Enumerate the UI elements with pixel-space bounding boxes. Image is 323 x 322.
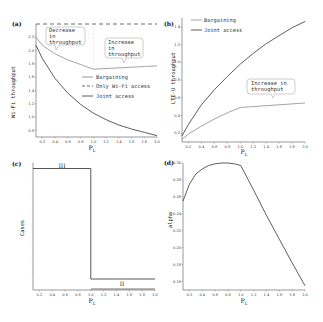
y-tick-label: 1.4: [28, 89, 34, 93]
y-tick-label: 1.8: [28, 62, 34, 66]
x-tick-label: 0.6: [212, 293, 218, 297]
series-alpha: [183, 163, 305, 286]
y-tick-label: 0.22: [173, 229, 181, 233]
panel-a-legend: Bargaining Only Wi-Fi access Joint acces…: [82, 74, 150, 99]
series-joint-access: [36, 45, 157, 135]
x-tick-label: 1.6: [126, 293, 132, 297]
y-tick-label: 0.24: [173, 212, 182, 216]
x-tick-label: 0.2: [37, 293, 43, 297]
y-tick-label: 0.30: [173, 161, 182, 165]
legend-bargaining: Bargaining: [96, 74, 128, 81]
x-tick-label: 1.2: [103, 140, 109, 144]
y-tick-label: 1.2: [174, 43, 180, 47]
y-tick-label: 2.2: [28, 35, 34, 39]
x-tick-label: 0.6: [62, 293, 68, 297]
x-tick-label: 2.0: [302, 145, 308, 149]
figure: (a) Wi-Fi throughput PL Bargaining Only …: [0, 0, 323, 322]
panel-b-label: (b): [164, 20, 174, 27]
x-tick-label: 2.0: [154, 140, 160, 144]
region-ii-label: II: [120, 280, 125, 287]
y-tick-label: 0.6: [174, 96, 180, 100]
x-tick-label: 1.2: [250, 145, 256, 149]
x-tick-label: 0.6: [65, 140, 71, 144]
x-tick-label: 0.8: [224, 145, 230, 149]
x-tick-label: 0.2: [40, 140, 46, 144]
x-tick-label: 0.4: [52, 140, 58, 144]
x-tick-label: 2.0: [302, 293, 308, 297]
x-tick-label: 0.8: [78, 140, 84, 144]
x-tick-label: 0.2: [187, 293, 193, 297]
x-tick-label: 0.8: [225, 293, 231, 297]
panel-b-annotation-increase: Increase in throughput: [247, 79, 295, 98]
x-tick-label: 1.8: [289, 145, 295, 149]
panel-a-label: (a): [12, 20, 22, 27]
y-tick-label: 0.4: [174, 114, 180, 118]
panel-b-legend: Bargaining Joint access: [191, 17, 242, 33]
y-tick-label: 0.8: [28, 129, 34, 133]
panel-a-ylabel: Wi-Fi throughput: [10, 66, 17, 118]
y-tick-label: 1.0: [28, 115, 34, 119]
x-tick-label: 1.6: [276, 293, 282, 297]
y-tick-label: 2.0: [28, 49, 34, 53]
y-tick-label: 0.26: [173, 195, 182, 199]
x-tick-label: 1.0: [88, 293, 94, 297]
panel-b-xlabel: PL: [240, 148, 247, 157]
panel-a-xlabel: PL: [88, 144, 95, 153]
x-tick-label: 1.0: [90, 140, 96, 144]
panel-a-annotation-decrease: Decrease in throughput: [46, 27, 85, 50]
panel-c-xlabel: PL: [88, 297, 95, 306]
panel-a: (a) Wi-Fi throughput PL Bargaining Only …: [10, 20, 150, 153]
panel-d-plot: 0.20.40.60.81.01.21.41.61.82.00.160.180.…: [173, 161, 309, 297]
x-tick-label: 1.8: [139, 293, 145, 297]
series-cases: [33, 169, 155, 280]
x-tick-label: 1.4: [264, 293, 270, 297]
y-tick-label: 1.4: [174, 25, 180, 29]
x-tick-label: 1.0: [238, 293, 244, 297]
x-tick-label: 0.4: [49, 293, 55, 297]
panel-d-xlabel: PL: [240, 297, 247, 306]
x-tick-label: 1.4: [116, 140, 122, 144]
y-tick-label: 1.2: [28, 102, 34, 106]
y-tick-label: 0.18: [173, 263, 182, 267]
x-tick-label: 0.2: [186, 145, 192, 149]
y-tick-label: 0.2: [174, 131, 180, 135]
legend-only-wifi: Only Wi-Fi access: [96, 83, 150, 90]
y-tick-label: 0.28: [173, 178, 182, 182]
x-tick-label: 1.0: [237, 145, 243, 149]
legend-joint-access: Joint access: [96, 93, 134, 99]
y-tick-label: 0.8: [174, 78, 180, 82]
panel-c-label: (c): [12, 160, 21, 167]
x-tick-label: 1.4: [114, 293, 120, 297]
x-tick-label: 1.8: [141, 140, 147, 144]
region-iii-label: III: [58, 162, 66, 169]
y-tick-label: 1.6: [28, 75, 34, 79]
series-joint-access: [182, 22, 305, 136]
legend-joint-access: Joint access: [204, 27, 242, 33]
chart-canvas: (a) Wi-Fi throughput PL Bargaining Only …: [0, 0, 323, 322]
y-tick-label: 0.20: [173, 246, 182, 250]
y-tick-label: 0.16: [173, 280, 182, 284]
x-tick-label: 1.4: [263, 145, 269, 149]
x-tick-label: 0.4: [199, 293, 205, 297]
panel-c-plot: 0.20.40.60.81.01.21.41.61.82.0: [32, 163, 159, 297]
x-tick-label: 0.4: [199, 145, 205, 149]
x-tick-label: 2.0: [152, 293, 158, 297]
plot-geometry: 0.20.40.60.81.01.21.41.61.82.00.81.01.21…: [28, 18, 308, 297]
svg-text:throughput: throughput: [49, 39, 81, 46]
x-tick-label: 0.8: [75, 293, 81, 297]
x-tick-label: 1.2: [251, 293, 257, 297]
x-tick-label: 1.6: [129, 140, 135, 144]
panel-c-ylabel: Cases: [19, 220, 25, 236]
x-tick-label: 1.2: [101, 293, 107, 297]
y-tick-label: 1.0: [174, 60, 180, 64]
svg-text:throughput: throughput: [108, 51, 140, 58]
legend-bargaining: Bargaining: [204, 17, 236, 24]
x-tick-label: 1.6: [276, 145, 282, 149]
x-tick-label: 0.6: [212, 145, 218, 149]
svg-text:throughput: throughput: [251, 86, 283, 93]
series-bargaining: [182, 103, 305, 139]
x-tick-label: 1.8: [289, 293, 295, 297]
panel-a-annotation-increase: Increase in throughput: [105, 38, 143, 63]
panel-c: (c) Cases PL III II: [12, 160, 125, 306]
